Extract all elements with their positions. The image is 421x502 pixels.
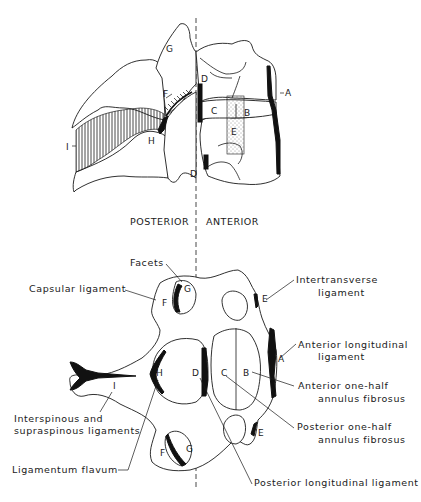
label-letter-g-top: G	[184, 284, 191, 294]
label-anterior-annulus-2: annulus fibrosus	[318, 393, 406, 404]
label-letter-g: G	[166, 44, 173, 54]
label-ligamentum-flavum: Ligamentum flavum	[12, 464, 118, 475]
transverse-foramen-bottom	[224, 415, 246, 444]
label-capsular-ligament: Capsular ligament	[29, 283, 126, 294]
anterior-label: ANTERIOR	[206, 216, 259, 227]
label-facets: Facets	[130, 257, 164, 268]
label-posterior-annulus-2: annulus fibrosus	[318, 434, 406, 445]
label-letter-h: H	[156, 368, 163, 378]
upper-vertebral-body	[196, 41, 276, 103]
label-letter-e: E	[231, 127, 237, 137]
posterior-label: POSTERIOR	[130, 216, 189, 227]
label-letter-f: F	[163, 89, 168, 99]
label-letter-f-bottom: F	[160, 448, 165, 458]
posterior-longitudinal-ligament-upper	[198, 84, 202, 122]
label-letter-b: B	[244, 108, 250, 118]
label-letter-b: B	[243, 368, 249, 378]
label-letter-e-bottom: E	[258, 428, 264, 438]
label-interspinous-2: supraspinous ligaments	[14, 425, 140, 436]
label-intertransverse-1: Intertransverse	[296, 274, 378, 285]
label-letter-d-bottom: D	[190, 169, 197, 179]
label-letter-g-bottom: G	[186, 444, 193, 454]
lateral-view: G D F C B E H I D A	[66, 24, 292, 192]
label-letter-d: D	[192, 368, 199, 378]
label-letter-c: C	[211, 106, 217, 116]
axial-view: G F E A H D C B I E F G Facets Capsular …	[12, 257, 419, 488]
label-letter-d-top: D	[201, 74, 208, 84]
label-posterior-annulus-1: Posterior one-half	[297, 421, 392, 432]
label-letter-h: H	[148, 136, 155, 146]
intertransverse-ligament-dotted	[227, 96, 244, 154]
label-letter-a: A	[278, 354, 285, 364]
label-posterior-longitudinal: Posterior longitudinal ligament	[254, 477, 419, 488]
label-letter-i: I	[66, 142, 69, 152]
label-letter-f-top: F	[162, 298, 167, 308]
label-letter-i: I	[113, 381, 116, 391]
label-letter-a: A	[285, 88, 292, 98]
label-anterior-longitudinal-1: Anterior longitudinal	[298, 339, 408, 350]
spinal-ligament-diagram: G D F C B E H I D A POSTERIOR ANTERIOR	[0, 0, 421, 502]
label-anterior-longitudinal-2: ligament	[318, 351, 365, 362]
label-interspinous-1: Interspinous and	[14, 413, 103, 424]
label-anterior-annulus-1: Anterior one-half	[298, 380, 389, 391]
label-intertransverse-2: ligament	[318, 287, 365, 298]
posterior-longitudinal-ligament-lower	[204, 155, 208, 169]
